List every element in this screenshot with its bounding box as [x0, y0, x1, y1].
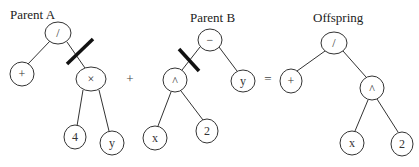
- tree-node-left: +: [280, 69, 302, 93]
- edge: [355, 100, 368, 131]
- crossover-diagram: Parent A / + × 4 y + P: [0, 0, 419, 167]
- edge: [99, 90, 109, 131]
- edge: [377, 99, 398, 132]
- tree-node-right: ×: [76, 67, 106, 91]
- svg-text:+: +: [288, 74, 295, 88]
- tree-node-right-left: 4: [64, 125, 86, 149]
- tree-node-right-right: 2: [391, 132, 413, 156]
- tree-node-right: y: [231, 70, 255, 92]
- tree-node-right-left: x: [340, 131, 364, 155]
- parent-a-tree: Parent A / + × 4 y: [10, 7, 124, 155]
- parent-b-label: Parent B: [190, 10, 235, 25]
- edge: [181, 91, 203, 120]
- offspring-tree: Offspring / + ^ x 2: [280, 10, 413, 156]
- svg-text:x: x: [152, 131, 158, 145]
- edge: [28, 41, 50, 64]
- svg-text:−: −: [207, 33, 214, 47]
- parent-a-label: Parent A: [10, 7, 56, 22]
- tree-node-right-right: y: [100, 131, 124, 155]
- tree-node-right: ^: [360, 76, 384, 100]
- tree-node-root: /: [45, 22, 71, 44]
- parent-b-tree: Parent B − ^ y x 2: [143, 10, 255, 150]
- plus-operator: +: [126, 71, 133, 86]
- svg-text:+: +: [19, 67, 26, 81]
- svg-text:×: ×: [88, 72, 95, 86]
- tree-node-root: −: [198, 29, 222, 51]
- offspring-label: Offspring: [313, 10, 364, 25]
- tree-node-left: ^: [163, 68, 187, 92]
- tree-node-left-right: 2: [196, 119, 218, 143]
- svg-text:2: 2: [399, 137, 405, 151]
- svg-text:y: y: [109, 136, 115, 150]
- edge: [297, 51, 325, 71]
- svg-text:4: 4: [72, 130, 78, 144]
- tree-node-root: /: [321, 32, 347, 54]
- edge: [219, 47, 237, 71]
- tree-node-left: +: [10, 62, 34, 86]
- svg-text:y: y: [240, 74, 246, 88]
- edge: [158, 92, 171, 126]
- edge: [77, 90, 83, 126]
- edge: [343, 51, 366, 77]
- svg-text:2: 2: [204, 124, 210, 138]
- equals-operator: =: [264, 71, 271, 86]
- tree-node-left-left: x: [143, 126, 167, 150]
- svg-text:^: ^: [172, 74, 178, 88]
- svg-text:x: x: [349, 136, 355, 150]
- svg-text:^: ^: [369, 82, 375, 96]
